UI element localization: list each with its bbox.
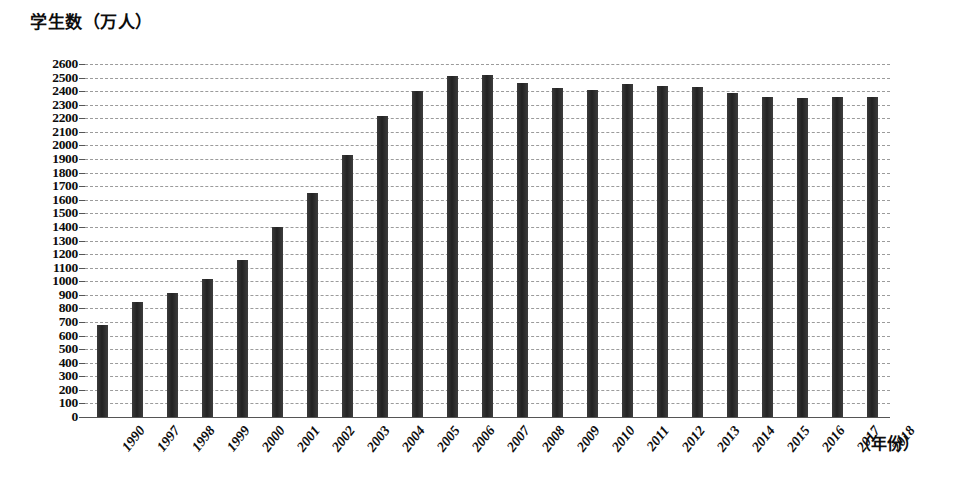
x-axis-tick-label: 2015 xyxy=(783,423,813,455)
bar xyxy=(342,155,353,417)
bar xyxy=(447,76,458,417)
bar xyxy=(657,86,668,417)
x-axis-title: （年份） xyxy=(855,430,919,454)
bar xyxy=(867,97,878,417)
y-axis-tick-label: 2300 xyxy=(18,97,78,113)
y-axis-tick-label: 200 xyxy=(18,382,78,398)
x-axis-tick-label: 1998 xyxy=(188,423,218,455)
bar xyxy=(552,88,563,417)
y-axis-tick-label: 1800 xyxy=(18,165,78,181)
bar xyxy=(202,279,213,417)
bar-chart: 学生数（万人） 01002003004005006007008009001000… xyxy=(0,0,957,494)
y-axis-tick-label: 1900 xyxy=(18,151,78,167)
y-axis-tick-label: 700 xyxy=(18,314,78,330)
bar xyxy=(97,325,108,417)
bar xyxy=(797,98,808,417)
y-axis-tick-label: 300 xyxy=(18,368,78,384)
y-axis-tick-label: 600 xyxy=(18,328,78,344)
plot-area xyxy=(85,64,890,417)
x-axis-tick-label: 2012 xyxy=(678,423,708,455)
bar xyxy=(412,91,423,417)
bar xyxy=(517,83,528,417)
bar xyxy=(727,93,738,417)
x-axis-tick-label: 1997 xyxy=(153,423,183,455)
bar xyxy=(307,193,318,417)
y-axis-tick-label: 1300 xyxy=(18,233,78,249)
x-axis-tick-label: 2000 xyxy=(258,423,288,455)
y-axis-tick-label: 1000 xyxy=(18,273,78,289)
x-axis-tick-label: 2005 xyxy=(433,423,463,455)
y-axis-tick-label: 1200 xyxy=(18,246,78,262)
y-axis-tick-label: 1500 xyxy=(18,205,78,221)
bar xyxy=(167,293,178,417)
y-axis-tick-label: 2400 xyxy=(18,83,78,99)
y-axis-tick-label: 1100 xyxy=(18,260,78,276)
bar xyxy=(132,302,143,417)
y-axis-tick-label: 0 xyxy=(18,409,78,425)
x-axis-tick-label: 1999 xyxy=(223,423,253,455)
bar xyxy=(377,116,388,417)
x-axis-tick-label: 2007 xyxy=(503,423,533,455)
x-axis-tick-label: 2013 xyxy=(713,423,743,455)
gridline xyxy=(85,64,890,65)
y-axis-tick-label: 2200 xyxy=(18,110,78,126)
y-axis-tick-label: 1700 xyxy=(18,178,78,194)
x-axis-tick-label: 2016 xyxy=(818,423,848,455)
bar xyxy=(587,90,598,417)
x-axis-tick-label: 2006 xyxy=(468,423,498,455)
y-axis-tick-label: 2500 xyxy=(18,70,78,86)
x-axis-tick-label: 2014 xyxy=(748,423,778,455)
bar xyxy=(762,97,773,417)
bar xyxy=(832,97,843,417)
x-axis-line xyxy=(85,417,890,418)
x-axis-tick-label: 1990 xyxy=(118,423,148,455)
y-axis-tick-label: 2600 xyxy=(18,56,78,72)
x-axis-tick-label: 2010 xyxy=(608,423,638,455)
y-axis-tick-label: 2000 xyxy=(18,137,78,153)
bar xyxy=(622,84,633,417)
x-axis-tick-label: 2009 xyxy=(573,423,603,455)
bar xyxy=(237,260,248,417)
y-axis-title: 学生数（万人） xyxy=(30,8,153,33)
y-axis-tick-label: 100 xyxy=(18,395,78,411)
y-axis-tick-label: 1400 xyxy=(18,219,78,235)
y-axis-tick-label: 900 xyxy=(18,287,78,303)
x-axis-tick-label: 2004 xyxy=(398,423,428,455)
x-axis-tick-label: 2003 xyxy=(363,423,393,455)
bar xyxy=(692,87,703,417)
y-axis-tick-label: 2100 xyxy=(18,124,78,140)
y-axis-tick-label: 500 xyxy=(18,341,78,357)
x-axis-tick-label: 2008 xyxy=(538,423,568,455)
y-axis-tick-label: 800 xyxy=(18,300,78,316)
x-axis-tick-label: 2001 xyxy=(293,423,323,455)
x-axis-tick-label: 2011 xyxy=(643,423,672,454)
y-axis-tick-label: 400 xyxy=(18,355,78,371)
x-axis-tick-label: 2002 xyxy=(328,423,358,455)
bar xyxy=(482,75,493,417)
bar xyxy=(272,227,283,417)
y-axis-tick-label: 1600 xyxy=(18,192,78,208)
